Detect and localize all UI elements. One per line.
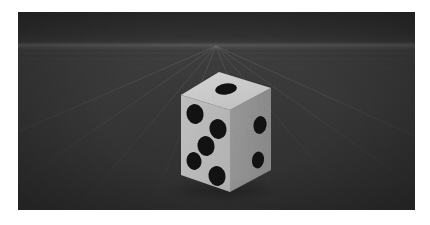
3d-viewport[interactable]: 3D Dice Render: [18, 12, 415, 210]
perspective-grid: [18, 12, 415, 210]
screenshot-root: 3D Dice Render: [0, 0, 430, 225]
